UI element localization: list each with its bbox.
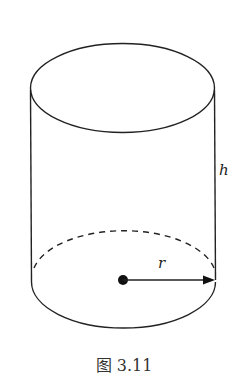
radius-label: r bbox=[158, 254, 165, 272]
bottom-ellipse-front bbox=[32, 282, 216, 328]
bottom-ellipse-back-dashed bbox=[34, 231, 214, 268]
cylinder-diagram bbox=[0, 0, 248, 389]
top-ellipse bbox=[31, 44, 215, 133]
left-side-line bbox=[31, 90, 32, 282]
right-side-line bbox=[215, 90, 216, 280]
radius-arrowhead bbox=[203, 276, 215, 285]
figure-caption: 图 3.11 bbox=[0, 352, 248, 376]
height-label: h bbox=[219, 161, 229, 179]
